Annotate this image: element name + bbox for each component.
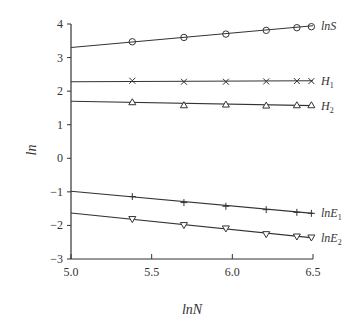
axes: −3−2−1012345.05.56.06.5 (50, 17, 320, 279)
fit-line (71, 26, 313, 48)
y-tick-label: 1 (57, 118, 63, 132)
y-tick-label: −3 (50, 252, 63, 266)
series-label: lnE2 (321, 231, 342, 247)
fit-line (71, 81, 313, 82)
x-marker-icon (129, 78, 135, 84)
series-label: lnE1 (321, 206, 342, 222)
x-marker-icon (223, 79, 229, 85)
fit-line (71, 191, 313, 213)
x-tick-label: 5.5 (144, 265, 159, 279)
triangle-down-marker-icon (180, 223, 187, 229)
plus-marker-icon (180, 199, 187, 206)
y-tick-label: 3 (57, 51, 63, 65)
y-tick-label: −1 (50, 185, 63, 199)
triangle-down-marker-icon (293, 234, 300, 240)
y-tick-label: −2 (50, 218, 63, 232)
series-H1: H1 (71, 74, 334, 90)
fit-line (71, 101, 313, 105)
x-tick-label: 5.0 (64, 265, 79, 279)
series-H2: H2 (71, 99, 334, 115)
plus-marker-icon (222, 203, 229, 210)
series-lnS: lnS (71, 19, 336, 48)
triangle-marker-icon (308, 102, 315, 108)
series-group: lnSH1H2lnE1lnE2 (71, 19, 342, 247)
x-axis-title: lnN (182, 302, 203, 317)
y-tick-label: 2 (57, 84, 63, 98)
series-label: H2 (320, 99, 334, 115)
x-tick-label: 6.0 (225, 265, 240, 279)
y-tick-label: 4 (57, 17, 63, 31)
series-label: lnS (321, 19, 336, 33)
plus-marker-icon (308, 210, 315, 217)
triangle-down-marker-icon (308, 235, 315, 241)
series-label: H1 (320, 74, 334, 90)
x-tick-label: 6.5 (306, 265, 321, 279)
series-lnE2: lnE2 (71, 213, 342, 247)
y-axis-title: ln (24, 145, 39, 156)
triangle-marker-icon (129, 99, 136, 105)
fit-line (71, 213, 313, 238)
y-tick-label: 0 (57, 151, 63, 165)
chart: −3−2−1012345.05.56.06.5 lnSH1H2lnE1lnE2 … (0, 0, 356, 328)
plus-marker-icon (293, 209, 300, 216)
plus-marker-icon (129, 193, 136, 200)
triangle-down-marker-icon (263, 232, 270, 238)
circle-marker-icon (308, 23, 314, 29)
triangle-marker-icon (180, 102, 187, 108)
plus-marker-icon (263, 206, 270, 213)
